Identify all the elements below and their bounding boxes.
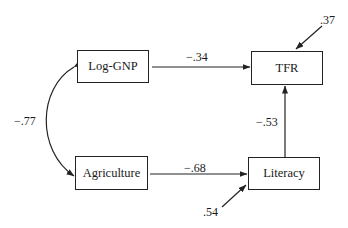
- node-label: Log-GNP: [88, 59, 137, 74]
- node-label: TFR: [276, 61, 299, 76]
- residual-literacy-label: .54: [203, 206, 218, 218]
- residual-tfr-label: .37: [320, 14, 335, 26]
- arrow-correlation-loggnp-agriculture: [46, 67, 74, 176]
- arrow-residual-tfr: [296, 26, 322, 49]
- coef-loggnp-tfr: −.34: [186, 51, 208, 63]
- node-label: Agriculture: [83, 166, 141, 181]
- node-label: Literacy: [263, 166, 305, 181]
- coef-literacy-tfr: −.53: [256, 116, 278, 128]
- node-literacy: Literacy: [248, 157, 320, 190]
- diagram-connectors: [0, 0, 348, 228]
- node-tfr: TFR: [251, 51, 323, 85]
- coef-correlation: −.77: [14, 115, 36, 127]
- node-agriculture: Agriculture: [75, 156, 148, 190]
- coef-agriculture-literacy: −.68: [184, 162, 206, 174]
- arrow-residual-literacy: [222, 185, 246, 207]
- node-log-gnp: Log-GNP: [77, 50, 149, 83]
